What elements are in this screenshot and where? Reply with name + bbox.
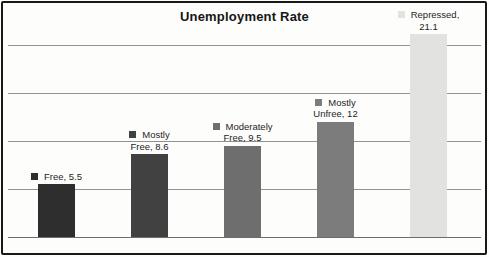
bar-label-line: Free, 9.5 [185, 132, 301, 144]
bar-mostly-unfree [317, 122, 354, 237]
legend-key-icon [129, 131, 136, 138]
bar-label-line: Repressed, [371, 9, 487, 21]
bar-repressed [410, 34, 447, 237]
bar-label: MostlyUnfree, 12 [278, 97, 394, 120]
bar-mostly-free [131, 154, 168, 237]
legend-key-icon [213, 123, 220, 130]
bar-moderately-free [224, 146, 261, 237]
unemployment-rate-chart: Unemployment Rate Free, 5.5MostlyFree, 8… [0, 0, 489, 257]
bar-label-line: Mostly [278, 97, 394, 109]
bar-label-line: Moderately [185, 121, 301, 133]
bar-label-line: Unfree, 12 [278, 108, 394, 120]
legend-key-icon [398, 11, 405, 18]
bar-label-line: Free, 5.5 [0, 171, 115, 183]
legend-key-icon [31, 173, 38, 180]
bar-label: Repressed,21.1 [371, 9, 487, 32]
bar-free [38, 184, 75, 237]
bar-label-line: 21.1 [371, 21, 487, 33]
bar-label: ModeratelyFree, 9.5 [185, 121, 301, 144]
legend-key-icon [315, 99, 322, 106]
x-axis-line [8, 237, 481, 238]
bar-label: Free, 5.5 [0, 171, 115, 183]
